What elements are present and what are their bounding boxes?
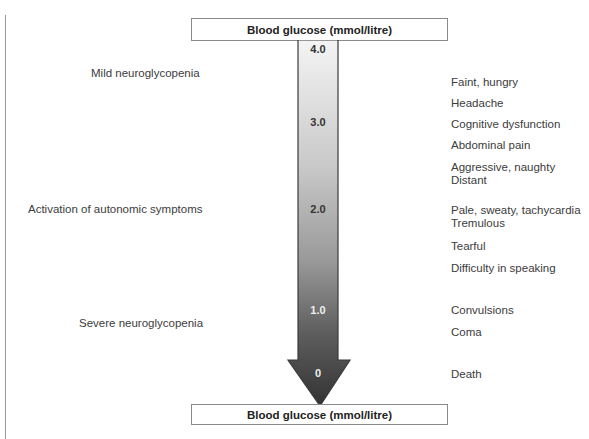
symptom-label: Headache xyxy=(451,96,503,110)
symptom-label: Tremulous xyxy=(451,216,505,230)
symptom-label: Coma xyxy=(451,325,482,339)
symptom-label: Tearful xyxy=(451,239,486,253)
axis-title-bottom-text: Blood glucose (mmol/litre) xyxy=(247,409,392,421)
axis-title-top-text: Blood glucose (mmol/litre) xyxy=(247,24,392,36)
symptom-label: Death xyxy=(451,367,482,381)
tick-label: 1.0 xyxy=(298,304,338,316)
symptom-label: Pale, sweaty, tachycardia xyxy=(451,203,581,217)
symptom-label: Abdominal pain xyxy=(451,138,530,152)
tick-label: 0 xyxy=(298,367,338,379)
symptom-label: Aggressive, naughty xyxy=(451,160,555,174)
tick-label: 2.0 xyxy=(298,203,338,215)
tick-label: 4.0 xyxy=(298,43,338,55)
symptom-label: Convulsions xyxy=(451,303,514,317)
stage-label: Severe neuroglycopenia xyxy=(79,317,203,329)
glucose-down-arrow xyxy=(280,40,360,408)
stage-label: Activation of autonomic symptoms xyxy=(28,203,203,215)
tick-label: 3.0 xyxy=(298,116,338,128)
axis-title-top: Blood glucose (mmol/litre) xyxy=(191,18,448,41)
left-edge-line xyxy=(5,15,6,439)
stage-label: Mild neuroglycopenia xyxy=(91,67,200,79)
symptom-label: Cognitive dysfunction xyxy=(451,117,560,131)
axis-title-bottom: Blood glucose (mmol/litre) xyxy=(191,404,448,425)
symptom-label: Difficulty in speaking xyxy=(451,261,556,275)
symptom-label: Distant xyxy=(451,173,487,187)
symptom-label: Faint, hungry xyxy=(451,75,518,89)
